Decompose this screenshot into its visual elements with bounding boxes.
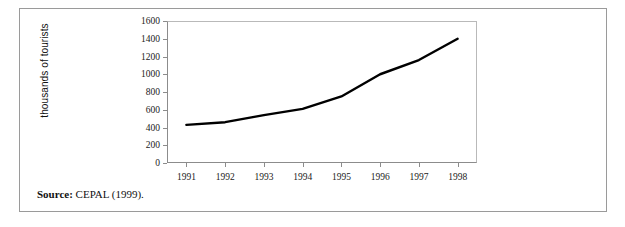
y-tick-label: 1600	[118, 16, 167, 26]
y-tick-label: 1000	[118, 69, 167, 79]
source-text: CEPAL (1999).	[76, 188, 144, 200]
y-tick-label: 600	[118, 105, 167, 115]
y-tick-label: 400	[118, 123, 167, 133]
x-tick-mark	[225, 163, 226, 167]
source-note: Source: CEPAL (1999).	[37, 188, 144, 200]
y-tick-label: 0	[118, 158, 167, 168]
x-tick-mark	[341, 163, 342, 167]
y-tick-label: 1200	[118, 52, 167, 62]
line-series	[167, 21, 477, 163]
x-tick-mark	[186, 163, 187, 167]
y-tick-label: 800	[118, 87, 167, 97]
y-axis-title: thousands of tourists	[39, 1, 50, 141]
y-tick-label: 1400	[118, 34, 167, 44]
x-tick-label: 1998	[428, 172, 488, 182]
x-tick-mark	[303, 163, 304, 167]
x-tick-mark	[264, 163, 265, 167]
x-tick-mark	[419, 163, 420, 167]
chart-area: thousands of tourists 020040060080010001…	[20, 9, 608, 181]
x-tick-mark	[458, 163, 459, 167]
tourists-line	[186, 39, 457, 125]
figure-frame: thousands of tourists 020040060080010001…	[19, 8, 607, 212]
y-tick-label: 200	[118, 140, 167, 150]
source-label: Source:	[37, 188, 73, 200]
x-tick-mark	[380, 163, 381, 167]
plot-area: 02004006008001000120014001600 1991199219…	[167, 21, 477, 163]
